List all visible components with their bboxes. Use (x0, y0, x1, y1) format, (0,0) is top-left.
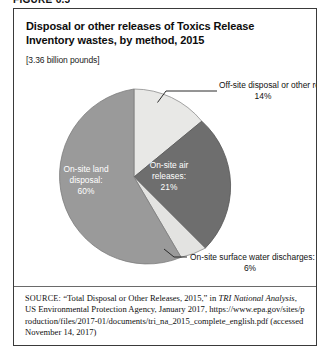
label-land-disposal-line1: On-site land (63, 164, 108, 174)
label-onsite-air-value: 21% (161, 182, 178, 192)
figure-page: FIGURE 6.5 Disposal or other releases of… (0, 0, 330, 354)
label-land-disposal-line2: disposal: (69, 175, 102, 185)
label-surface-water-value: 6% (244, 263, 257, 273)
figure-number-header: FIGURE 6.5 (13, 0, 70, 4)
pie-chart-svg: Off-site disposal or other releases: 14%… (14, 69, 316, 284)
source-note: SOURCE: “Total Disposal or Other Release… (25, 293, 307, 339)
source-text-part1: “Total Disposal or Other Releases, 2015,… (63, 293, 218, 303)
figure-subtitle: [3.36 billion pounds] (26, 55, 100, 65)
source-divider (14, 286, 316, 287)
label-offsite-disposal-value: 14% (255, 91, 272, 101)
page-title: Disposal or other releases of Toxics Rel… (26, 19, 294, 47)
source-italic-title: TRI National Analysis (218, 293, 294, 303)
source-label: SOURCE: (25, 294, 61, 303)
label-offsite-disposal-title: Off-site disposal or other releases: (219, 80, 316, 90)
pie-chart: Off-site disposal or other releases: 14%… (14, 69, 316, 284)
label-onsite-air-line2: releases: (152, 171, 186, 181)
figure-box: Disposal or other releases of Toxics Rel… (13, 8, 317, 346)
label-onsite-air-line1: On-site air (150, 160, 189, 170)
label-surface-water-title: On-site surface water discharges: (190, 252, 315, 262)
label-land-disposal-value: 60% (78, 186, 95, 196)
